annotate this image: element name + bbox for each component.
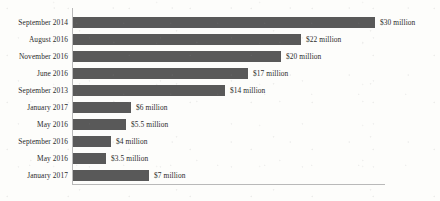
bar [73, 119, 126, 130]
bar-row: September 2013$14 million [0, 82, 440, 99]
bar [73, 153, 106, 164]
x-axis-line [72, 184, 385, 185]
bar-row: May 2016$3.5 million [0, 150, 440, 167]
category-label: August 2016 [0, 31, 68, 48]
bar [73, 136, 111, 147]
bar-row: June 2016$17 million [0, 65, 440, 82]
bar-row: August 2016$22 million [0, 31, 440, 48]
value-label: $17 million [253, 65, 288, 82]
category-label: June 2016 [0, 65, 68, 82]
category-label: September 2013 [0, 82, 68, 99]
bar-row: September 2016$4 million [0, 133, 440, 150]
bar [73, 68, 248, 79]
category-label: January 2017 [0, 167, 68, 184]
value-label: $22 million [306, 31, 341, 48]
value-label: $4 million [116, 133, 148, 150]
category-label: September 2016 [0, 133, 68, 150]
value-label: $7 million [154, 167, 186, 184]
bar [73, 17, 375, 28]
bar [73, 34, 301, 45]
value-label: $6 million [136, 99, 168, 116]
bar-row: November 2016$20 million [0, 48, 440, 65]
bar-row: January 2017$7 million [0, 167, 440, 184]
bar [73, 102, 131, 113]
bar-row: May 2016$5.5 million [0, 116, 440, 133]
category-label: November 2016 [0, 48, 68, 65]
value-label: $3.5 million [111, 150, 148, 167]
category-label: September 2014 [0, 14, 68, 31]
value-label: $20 million [286, 48, 321, 65]
bar-row: January 2017$6 million [0, 99, 440, 116]
bar [73, 85, 225, 96]
category-label: May 2016 [0, 150, 68, 167]
category-label: May 2016 [0, 116, 68, 133]
bar-row: September 2014$30 million [0, 14, 440, 31]
value-label: $14 million [230, 82, 265, 99]
chart-page: September 2014$30 millionAugust 2016$22 … [0, 0, 440, 201]
bar [73, 51, 281, 62]
bar-chart-plot-area: September 2014$30 millionAugust 2016$22 … [0, 0, 440, 201]
category-label: January 2017 [0, 99, 68, 116]
bar [73, 170, 149, 181]
value-label: $30 million [380, 14, 415, 31]
value-label: $5.5 million [131, 116, 168, 133]
